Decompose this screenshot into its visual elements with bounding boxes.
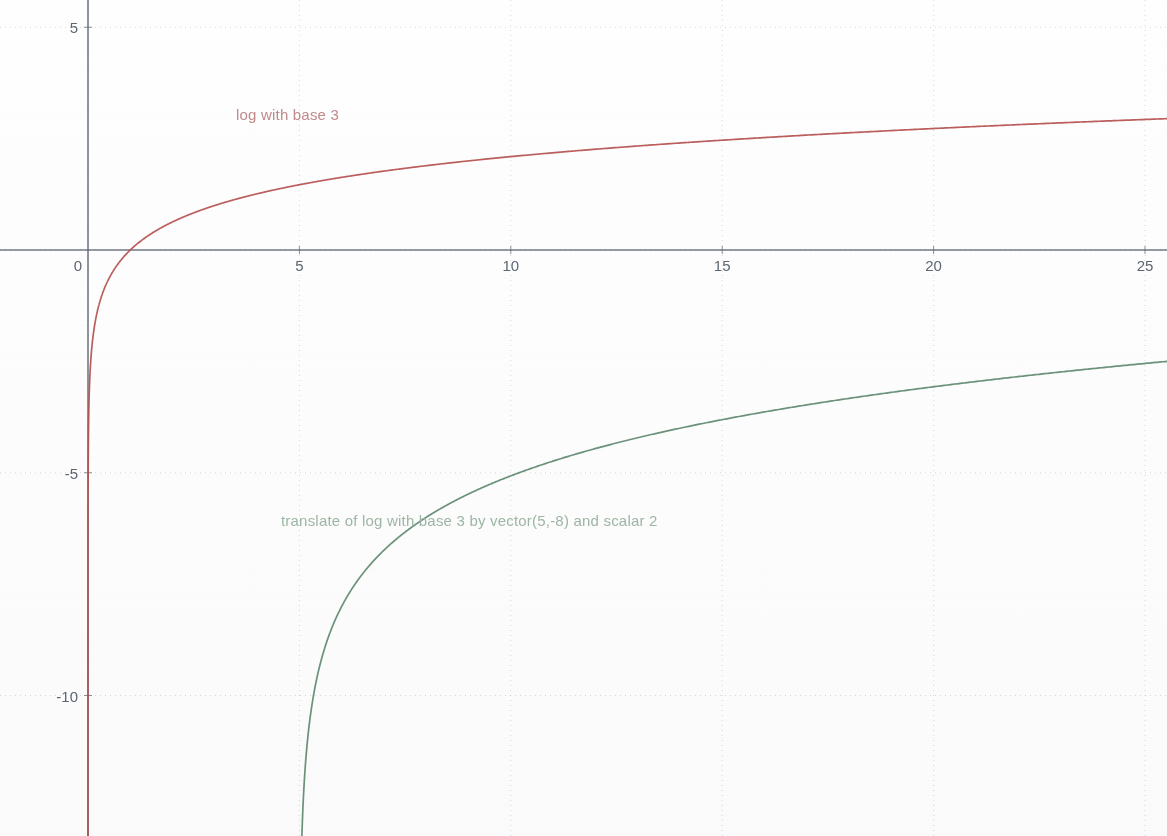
coordinate-plane bbox=[0, 0, 1167, 836]
graph-canvas: 05101520255-5-10 log with base 3 transla… bbox=[0, 0, 1167, 836]
x-tick-label: 20 bbox=[925, 257, 942, 274]
x-tick-label: 5 bbox=[295, 257, 303, 274]
curve-log-base-3 bbox=[88, 119, 1167, 836]
x-tick-label: 0 bbox=[74, 257, 82, 274]
y-tick-label: 5 bbox=[0, 19, 78, 36]
x-tick-label: 10 bbox=[502, 257, 519, 274]
curve-translated-log bbox=[300, 361, 1167, 836]
plotted-curves bbox=[88, 119, 1167, 836]
x-tick-label: 25 bbox=[1137, 257, 1154, 274]
axis-tick-marks bbox=[84, 27, 1145, 695]
y-tick-label: -5 bbox=[0, 464, 78, 481]
y-tick-label: -10 bbox=[0, 687, 78, 704]
x-tick-label: 15 bbox=[714, 257, 731, 274]
